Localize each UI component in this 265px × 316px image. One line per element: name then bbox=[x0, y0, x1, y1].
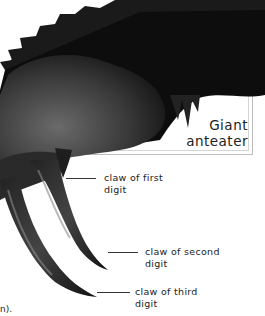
leader-line-first-claw bbox=[66, 178, 96, 179]
species-title-line1: Giant bbox=[186, 117, 248, 133]
label-claw-third-digit: claw of third digit bbox=[135, 286, 198, 310]
label-line2: digit bbox=[104, 184, 163, 196]
leader-line-third-claw bbox=[97, 292, 130, 293]
cropped-text-fragment: n). bbox=[0, 304, 12, 314]
label-claw-first-digit: claw of first digit bbox=[104, 172, 163, 196]
label-line1: claw of first bbox=[104, 172, 163, 184]
anteater-forelimb-illustration bbox=[0, 0, 265, 316]
label-line1: claw of second bbox=[145, 246, 220, 258]
species-title: Giant anteater bbox=[186, 117, 248, 149]
label-line2: digit bbox=[145, 258, 220, 270]
leader-line-second-claw bbox=[108, 252, 138, 253]
species-title-line2: anteater bbox=[186, 133, 248, 149]
label-line2: digit bbox=[135, 298, 198, 310]
label-line1: claw of third bbox=[135, 286, 198, 298]
label-claw-second-digit: claw of second digit bbox=[145, 246, 220, 270]
